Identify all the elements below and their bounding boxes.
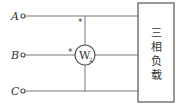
- load-char-1: 三: [151, 27, 162, 40]
- terminal-a-icon: [21, 14, 25, 18]
- load-char-3: 负: [151, 54, 162, 68]
- terminal-label-a: A: [10, 10, 19, 23]
- wattmeter-subscript: 2: [89, 56, 93, 63]
- terminal-label-c: C: [11, 85, 20, 98]
- polarity-mark-voltage: *: [78, 17, 83, 27]
- three-phase-circuit-diagram: A B C * * W 2 三 相 负 载: [0, 0, 184, 108]
- polarity-mark-current: *: [68, 47, 73, 57]
- load-char-2: 相: [151, 41, 162, 54]
- terminal-label-b: B: [10, 49, 19, 62]
- load-char-4: 载: [151, 69, 162, 82]
- terminal-b-icon: [21, 53, 25, 57]
- terminal-c-icon: [21, 89, 25, 93]
